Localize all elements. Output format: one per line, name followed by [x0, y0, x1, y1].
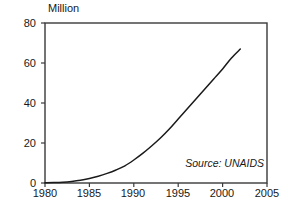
- data-line-hiv-aids: [45, 49, 240, 183]
- hiv-aids-line-chart: Million 80 60 40 20 0 1980 1985 1990 199…: [0, 0, 288, 202]
- plot-frame: [45, 23, 267, 183]
- plot-area: [0, 0, 288, 202]
- axis-tick-marks: [41, 23, 267, 187]
